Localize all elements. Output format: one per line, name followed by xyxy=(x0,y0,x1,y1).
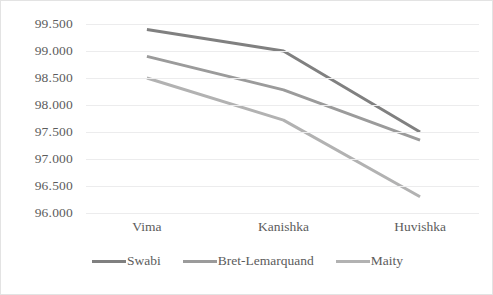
series-line-swabi xyxy=(147,29,420,132)
gridline xyxy=(86,105,479,106)
y-tick-label: 96.500 xyxy=(35,178,73,194)
y-axis: 99.50099.00098.50098.00097.50097.00096.5… xyxy=(1,1,81,295)
x-tick-label: Kanishka xyxy=(258,219,309,235)
y-tick-label: 96.000 xyxy=(35,205,73,221)
x-tick-label: Vima xyxy=(132,219,161,235)
y-tick-label: 99.000 xyxy=(35,43,73,59)
legend-label: Maity xyxy=(371,253,403,269)
series-line-maity xyxy=(147,78,420,197)
series-line-bret-lemarquand xyxy=(147,56,420,140)
legend-label: Bret-Lemarquand xyxy=(218,253,314,269)
legend-label: Swabi xyxy=(127,253,161,269)
series-lines xyxy=(86,24,479,213)
legend-item-swabi[interactable]: Swabi xyxy=(92,253,161,269)
y-tick-label: 97.500 xyxy=(35,124,73,140)
legend-item-maity[interactable]: Maity xyxy=(336,253,403,269)
gridline xyxy=(86,186,479,187)
y-tick-label: 97.000 xyxy=(35,151,73,167)
gridline xyxy=(86,24,479,25)
legend-line-icon xyxy=(336,260,370,263)
y-tick-label: 98.500 xyxy=(35,70,73,86)
legend-line-icon xyxy=(92,260,126,263)
gridline xyxy=(86,78,479,79)
chart-legend: SwabiBret-LemarquandMaity xyxy=(1,253,493,269)
plot-area xyxy=(86,24,479,213)
gridline xyxy=(86,51,479,52)
legend-item-bret-lemarquand[interactable]: Bret-Lemarquand xyxy=(183,253,314,269)
x-tick-label: Huvishka xyxy=(394,219,446,235)
y-tick-label: 98.000 xyxy=(35,97,73,113)
gridline xyxy=(86,213,479,214)
legend-line-icon xyxy=(183,260,217,263)
line-chart: 99.50099.00098.50098.00097.50097.00096.5… xyxy=(0,0,493,295)
x-axis: VimaKanishkaHuvishka xyxy=(86,219,479,241)
gridline xyxy=(86,132,479,133)
y-tick-label: 99.500 xyxy=(35,16,73,32)
gridline xyxy=(86,159,479,160)
